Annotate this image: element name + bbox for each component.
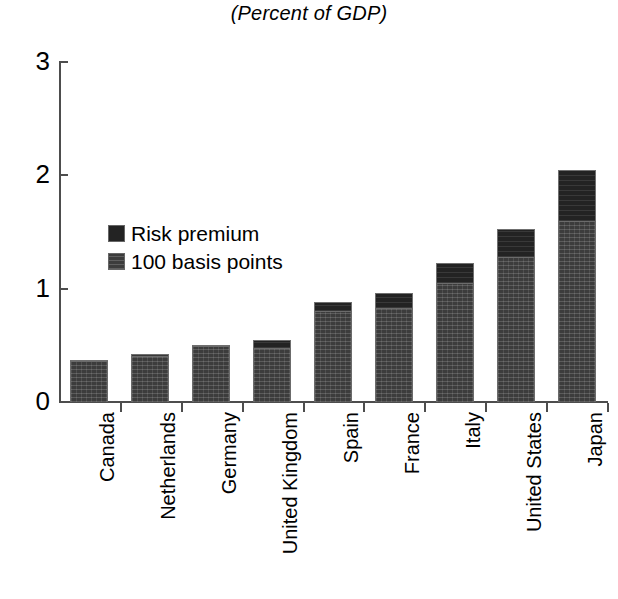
bar-segment-basis-points xyxy=(375,308,413,402)
bar-spain xyxy=(314,302,352,402)
x-axis-tick xyxy=(424,403,426,412)
basis-points-swatch xyxy=(108,253,125,270)
bar-segment-risk-premium xyxy=(192,345,230,346)
bar-segment-risk-premium xyxy=(70,360,108,361)
bar-italy xyxy=(436,263,474,402)
y-axis-tick-label: 3 xyxy=(4,48,50,74)
x-axis-label-canada: Canada xyxy=(97,412,117,482)
legend-label-basis-points: 100 basis points xyxy=(131,251,283,272)
bar-segment-risk-premium xyxy=(436,263,474,283)
x-axis-tick xyxy=(485,403,487,412)
x-axis-tick xyxy=(607,403,609,412)
x-axis-tick xyxy=(242,403,244,412)
x-axis-label-spain: Spain xyxy=(341,412,361,463)
bar-segment-basis-points xyxy=(253,348,291,402)
bar-segment-risk-premium xyxy=(314,302,352,311)
bar-segment-basis-points xyxy=(558,221,596,402)
bar-segment-risk-premium xyxy=(253,340,291,348)
risk-premium-swatch xyxy=(108,225,125,242)
legend-item-risk-premium: Risk premium xyxy=(108,219,283,247)
bar-segment-basis-points xyxy=(497,257,535,402)
bar-netherlands xyxy=(131,354,169,402)
bar-segment-risk-premium xyxy=(558,170,596,221)
bar-france xyxy=(375,293,413,402)
x-axis-tick xyxy=(181,403,183,412)
bar-united-kingdom xyxy=(253,340,291,402)
x-axis-label-netherlands: Netherlands xyxy=(158,412,178,520)
bar-segment-risk-premium xyxy=(497,229,535,257)
x-axis-label-japan: Japan xyxy=(585,412,605,467)
bar-united-states xyxy=(497,229,535,402)
bar-canada xyxy=(70,360,108,402)
bar-segment-basis-points xyxy=(192,346,230,402)
bar-segment-basis-points xyxy=(314,311,352,402)
bar-japan xyxy=(558,170,596,402)
legend-label-risk-premium: Risk premium xyxy=(131,223,259,244)
chart-legend: Risk premium 100 basis points xyxy=(108,219,283,275)
x-axis-label-france: France xyxy=(402,412,422,474)
bar-segment-risk-premium xyxy=(131,354,169,355)
x-axis-tick xyxy=(363,403,365,412)
y-axis-tick-label: 2 xyxy=(4,161,50,187)
x-axis-label-germany: Germany xyxy=(219,412,239,494)
bar-segment-basis-points xyxy=(436,283,474,402)
chart-title: (Percent of GDP) xyxy=(0,2,618,25)
bar-segment-basis-points xyxy=(131,356,169,402)
legend-item-basis-points: 100 basis points xyxy=(108,247,283,275)
y-axis-tick-label: 1 xyxy=(4,275,50,301)
x-axis-tick xyxy=(120,403,122,412)
x-axis-tick xyxy=(546,403,548,412)
x-axis-label-italy: Italy xyxy=(463,412,483,449)
x-axis-label-united-states: United States xyxy=(524,412,544,532)
x-axis-label-united-kingdom: United Kingdom xyxy=(280,412,300,554)
bar-germany xyxy=(192,345,230,402)
bar-chart: (Percent of GDP) 0123 CanadaNetherlandsG… xyxy=(0,0,618,599)
x-axis-tick xyxy=(303,403,305,412)
bar-segment-risk-premium xyxy=(375,293,413,308)
bar-segment-basis-points xyxy=(70,361,108,402)
y-axis-tick-label: 0 xyxy=(4,388,50,414)
